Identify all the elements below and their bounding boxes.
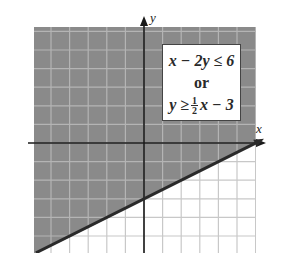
inequality-2-lhs: y ≥ (169, 97, 189, 113)
fraction-numerator: 1 (191, 96, 198, 106)
legend-line-3: y ≥ 1 2 x − 3 (163, 93, 240, 117)
inequality-legend: x − 2y ≤ 6 or y ≥ 1 2 x − 3 (162, 44, 241, 121)
legend-line-1: x − 2y ≤ 6 (163, 49, 240, 73)
inequality-graph (0, 0, 283, 253)
fraction-denominator: 2 (192, 106, 197, 115)
inequality-2-rhs: x − 3 (200, 97, 234, 113)
x-axis-label: x (256, 121, 262, 137)
fraction-one-half: 1 2 (191, 96, 198, 115)
y-axis-arrow-icon (140, 16, 148, 26)
y-axis-label: y (150, 10, 156, 26)
or-label: or (194, 75, 209, 91)
legend-line-2: or (163, 73, 240, 93)
inequality-1: x − 2y ≤ 6 (169, 53, 235, 69)
